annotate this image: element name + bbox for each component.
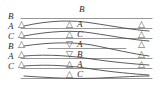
top-center-label: B xyxy=(79,5,85,14)
right-triangle-up-icon-2: △ xyxy=(138,30,145,39)
voice-leading-curves xyxy=(24,21,149,78)
figure-container: B B A C B A C △ △ △ △ △ △ A △ C ▽ A ▽ B … xyxy=(0,0,162,90)
center-triangle-up-icon-2: △ xyxy=(66,30,73,39)
center-label-6: C xyxy=(77,70,83,79)
curve-1 xyxy=(24,21,149,31)
left-label-2: A xyxy=(8,22,14,31)
center-label-3: A xyxy=(77,40,83,49)
curve-3 xyxy=(24,43,149,56)
center-label-2: C xyxy=(77,30,83,39)
right-triangle-up-icon-1: △ xyxy=(138,20,145,29)
curve-4 xyxy=(24,55,149,65)
left-label-1: B xyxy=(8,12,14,21)
left-triangle-up-icon-3: △ xyxy=(18,40,25,49)
curve-2 xyxy=(24,31,149,41)
left-triangle-up-icon-4: △ xyxy=(18,50,25,59)
center-label-1: A xyxy=(77,20,83,29)
left-triangle-up-icon-5: △ xyxy=(18,60,25,69)
left-label-6: C xyxy=(8,62,14,71)
center-triangle-down-icon-2: ▽ xyxy=(66,50,73,59)
staff-lines xyxy=(21,19,152,79)
left-label-5: A xyxy=(8,52,14,61)
center-label-4: B xyxy=(77,50,83,59)
right-triangle-up-icon-3: △ xyxy=(138,40,145,49)
center-triangle-up-icon-4: △ xyxy=(66,70,73,79)
center-label-5: A xyxy=(77,60,83,69)
left-triangle-up-icon-2: △ xyxy=(18,30,25,39)
left-label-3: C xyxy=(8,32,14,41)
center-triangle-up-icon-1: △ xyxy=(66,20,73,29)
left-triangle-up-icon-1: △ xyxy=(18,20,25,29)
right-triangle-up-icon-4: △ xyxy=(138,50,145,59)
right-triangle-up-icon-5: △ xyxy=(138,60,145,69)
curve-6 xyxy=(24,76,149,78)
curve-5 xyxy=(24,65,149,75)
center-triangle-down-icon-1: ▽ xyxy=(66,40,73,49)
center-triangle-up-icon-3: △ xyxy=(66,60,73,69)
left-label-4: B xyxy=(8,42,14,51)
